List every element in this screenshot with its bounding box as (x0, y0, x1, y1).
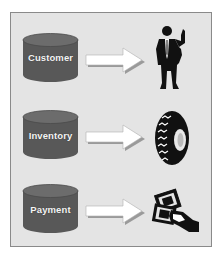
database-label: Payment (22, 204, 79, 215)
businessman-icon (153, 25, 187, 93)
database-label: Inventory (22, 130, 79, 141)
diagram-row-inventory: Inventory (0, 110, 223, 186)
diagram-row-customer: Customer (0, 33, 223, 109)
arrow-right-icon (85, 47, 147, 75)
arrow-right-icon (85, 198, 147, 226)
money-hand-icon (149, 188, 201, 236)
database-label: Customer (22, 52, 79, 63)
diagram-row-payment: Payment (0, 184, 223, 259)
arrow-right-icon (85, 124, 147, 152)
tire-icon (154, 110, 190, 166)
